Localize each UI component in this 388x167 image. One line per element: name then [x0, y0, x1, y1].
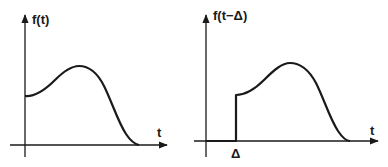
left-plot: f(t) t: [10, 12, 167, 157]
right-x-label: t: [370, 123, 375, 138]
left-x-label: t: [157, 125, 162, 140]
delta-shift-label: Δ: [231, 146, 240, 161]
right-y-label: f(t−Δ): [213, 8, 247, 23]
right-plot: f(t−Δ) t Δ: [194, 8, 378, 161]
left-curve-f-of-t: [25, 66, 139, 145]
left-y-label: f(t): [32, 12, 49, 27]
time-shift-diagram: f(t) t f(t−Δ) t Δ: [0, 0, 388, 167]
right-curve-shifted: [206, 63, 350, 141]
